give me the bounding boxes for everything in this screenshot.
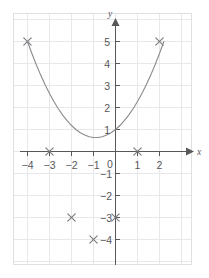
ytick-label: −1 xyxy=(100,168,112,180)
x-axis-label: x xyxy=(196,147,202,157)
xtick-label: 1 xyxy=(135,159,141,171)
ytick-label: 3 xyxy=(104,80,110,92)
ytick-label: 4 xyxy=(104,58,110,70)
ytick-label: −2 xyxy=(100,190,112,202)
xtick-label: −2 xyxy=(66,159,78,171)
graph-figure: −4 −3 −2 −1 0 1 2 5 4 3 2 1 −1 −2 −3 −4 … xyxy=(0,0,209,278)
ytick-label: −3 xyxy=(100,212,112,224)
xtick-label: 2 xyxy=(157,159,163,171)
xtick-label: −4 xyxy=(22,159,34,171)
ytick-label: 1 xyxy=(104,124,110,136)
ytick-label: 5 xyxy=(104,36,110,48)
y-axis-label: y xyxy=(107,9,113,19)
xtick-label: −1 xyxy=(88,159,100,171)
xtick-label: −3 xyxy=(44,159,56,171)
coordinate-plane: −4 −3 −2 −1 0 1 2 5 4 3 2 1 −1 −2 −3 −4 … xyxy=(0,0,209,278)
ytick-label: −4 xyxy=(100,234,112,246)
ytick-label: 2 xyxy=(104,102,110,114)
plot-background xyxy=(13,13,192,265)
